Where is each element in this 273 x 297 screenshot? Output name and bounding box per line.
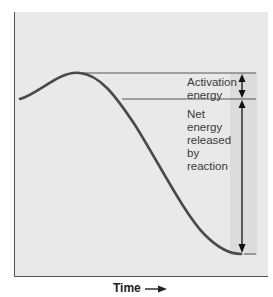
energy-diagram [0, 0, 273, 297]
x-axis-label: Time [113, 281, 141, 295]
net-energy-label: Net energy released by reaction [187, 108, 231, 173]
activation-energy-label: Activation energy [187, 76, 237, 102]
time-arrow-icon [145, 286, 167, 293]
